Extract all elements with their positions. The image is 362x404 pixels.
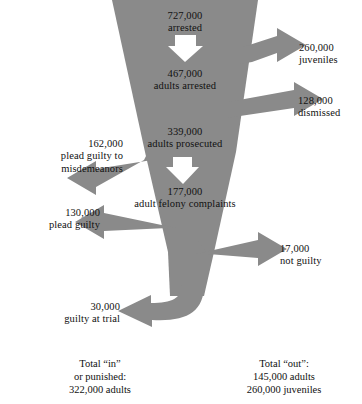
stage-label-arrested: 727,000 arrested xyxy=(131,10,239,35)
outflow-label-juveniles: 260,000 juveniles xyxy=(299,42,361,67)
stage-label-adult-felony-complaints: 177,000 adult felony complaints xyxy=(115,186,255,211)
outflow-label-not-guilty: 17,000 not guilty xyxy=(280,243,360,268)
total-out-block: Total “out”: 145,000 adults 260,000 juve… xyxy=(208,357,360,397)
outflow-label-dismissed: 128,000 dismissed xyxy=(298,95,362,120)
outflow-label-guilty-at-trial: 30,000 guilty at trial xyxy=(24,301,120,326)
total-in-block: Total “in” or punished: 322,000 adults xyxy=(32,357,168,397)
outflow-label-plead-guilty: 130,000 plead guilty xyxy=(8,207,100,232)
stage-label-adults-arrested: 467,000 adults arrested xyxy=(131,68,239,93)
criminal-justice-funnel-figure: 727,000 arrested 467,000 adults arrested… xyxy=(0,0,362,404)
stage-label-adults-prosecuted: 339,000 adults prosecuted xyxy=(124,126,246,151)
outflow-arrow-guilty-at-trial xyxy=(118,285,204,327)
outflow-label-misdemeanors: 162,000 plead guilty to misdemeanors xyxy=(2,138,123,175)
